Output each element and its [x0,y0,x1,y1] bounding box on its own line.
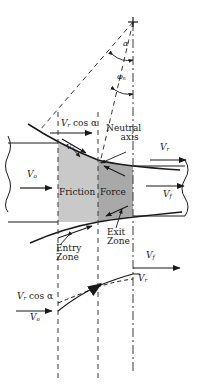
v-zero-profile-label: Vo [30,313,40,323]
vf-profile-label: Vf [146,251,155,261]
velocity-profile-dashed [58,279,133,303]
vr-profile-label: Vr [138,274,147,284]
vr-cos-alpha-profile-rest: cos α [26,291,53,301]
break-line-left [6,136,11,212]
neutral-axis-line2: axis [121,133,139,142]
vr-cos-alpha-rest: cos α [70,118,97,128]
v-zero-inlet-label: Vo [27,170,37,180]
v-zero-profile-subscript: o [37,316,40,322]
vr-arc-label: Vr [66,143,74,151]
vr-cos-alpha-profile-label: Vr cos α [17,292,53,302]
phi-n-angle-arc [115,90,133,94]
vr-outlet-label: Vr [160,143,169,153]
alpha-angle-arc [113,55,133,60]
neutral-axis-leader [101,152,126,163]
friction-label: Friction [59,188,95,197]
exit-zone-line2: Zone [107,236,130,246]
entry-zone-line2: Zone [56,252,79,262]
force-label: Force [100,188,126,197]
vr-outlet-subscript: r [167,146,170,152]
phi-subscript: n [123,75,126,81]
neutral-axis-label: Neutral axis [106,124,141,143]
phi-n-angle-label: φn [117,73,126,81]
alpha-angle-label: α [123,40,128,48]
vf-outlet-label: Vf [163,190,172,200]
rolling-velocity-diagram: α φn Vr cos α Neutral axis Vr Vo Vr Vf F… [0,0,208,389]
vr-cos-alpha-label: Vr cos α [61,119,97,129]
exit-zone-label: Exit Zone [107,228,130,247]
vr-profile-subscript: r [145,277,148,283]
vr-arc-subscript: r [72,145,74,151]
vf-profile-subscript: f [153,254,155,260]
vf-outlet-subscript: f [170,193,172,199]
neutral-point-marker [92,284,101,290]
entry-zone-label: Entry Zone [56,244,81,263]
break-line-right [182,160,188,216]
v-zero-inlet-subscript: o [34,173,37,179]
